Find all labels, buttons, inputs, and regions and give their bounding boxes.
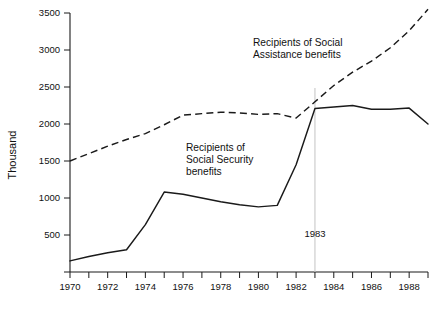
social-security-label-line-0: Recipients of — [186, 142, 245, 153]
x-tick-label: 1970 — [59, 281, 80, 292]
x-tick-label: 1986 — [361, 281, 382, 292]
social-security-label-line-2: benefits — [186, 166, 222, 177]
x-tick-label: 1978 — [210, 281, 231, 292]
reference-line-label: 1983 — [304, 228, 325, 239]
x-tick-label: 1984 — [323, 281, 344, 292]
x-tick-label: 1980 — [248, 281, 269, 292]
x-tick-label: 1982 — [286, 281, 307, 292]
x-axis: 1970197219741976197819801982198419861988 — [59, 272, 428, 292]
series-line-1 — [70, 106, 428, 261]
y-tick-label: 2000 — [39, 118, 60, 129]
social-assistance-label: Recipients of SocialAssistance benefits — [253, 37, 342, 60]
chart-container: Thousand 500100015002000250030003500 197… — [0, 0, 435, 309]
y-tick-label: 3500 — [39, 7, 60, 18]
y-tick-label: 2500 — [39, 81, 60, 92]
y-tick-label: 1000 — [39, 192, 60, 203]
y-axis-title: Thousand — [6, 131, 18, 180]
line-chart: Thousand 500100015002000250030003500 197… — [0, 0, 435, 309]
x-tick-label: 1974 — [135, 281, 156, 292]
x-tick-label: 1972 — [97, 281, 118, 292]
series-group — [70, 9, 428, 261]
series-line-0 — [70, 9, 428, 161]
social-security-label: Recipients ofSocial Securitybenefits — [186, 142, 254, 177]
y-tick-label: 1500 — [39, 155, 60, 166]
annotation-group: Recipients of SocialAssistance benefitsR… — [186, 37, 342, 177]
social-assistance-label-line-1: Assistance benefits — [253, 49, 341, 60]
y-tick-label: 500 — [44, 229, 60, 240]
social-assistance-label-line-0: Recipients of Social — [253, 37, 342, 48]
social-security-label-line-1: Social Security — [186, 154, 254, 165]
x-tick-label: 1976 — [172, 281, 193, 292]
y-tick-label: 3000 — [39, 44, 60, 55]
x-tick-label: 1988 — [399, 281, 420, 292]
reference-line-group: 1983 — [304, 88, 325, 272]
y-axis: 500100015002000250030003500 — [39, 7, 70, 272]
